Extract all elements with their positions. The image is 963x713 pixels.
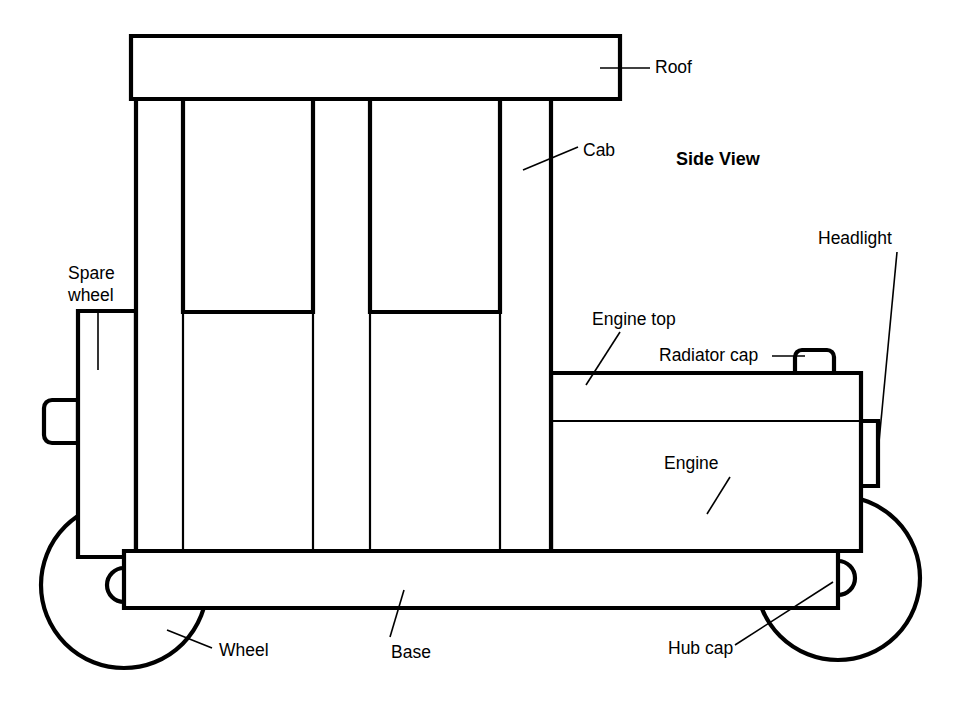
radiator-cap	[795, 350, 834, 373]
base	[124, 551, 838, 608]
page-title: Side View	[676, 149, 761, 169]
spare-wheel-bracket	[44, 400, 78, 443]
roof	[131, 36, 620, 99]
label-spare-wheel-line2: wheel	[67, 285, 114, 305]
cab-window-front	[370, 99, 500, 312]
label-radiator-cap: Radiator cap	[659, 345, 758, 365]
label-headlight: Headlight	[818, 228, 892, 248]
label-engine-top: Engine top	[592, 309, 676, 329]
label-wheel: Wheel	[219, 640, 269, 660]
side-view-diagram: Roof Cab Side View Headlight Spare wheel…	[0, 0, 963, 713]
side-view-drawing: Roof Cab Side View Headlight Spare wheel…	[0, 0, 963, 713]
cab-window-rear	[183, 99, 313, 312]
spare-wheel	[78, 311, 136, 557]
label-spare-wheel-line1: Spare	[68, 263, 115, 283]
label-base: Base	[391, 642, 431, 662]
label-hub-cap: Hub cap	[668, 638, 733, 658]
label-cab: Cab	[583, 140, 615, 160]
leader-headlight	[879, 252, 897, 442]
label-roof: Roof	[655, 57, 692, 77]
label-engine: Engine	[664, 453, 719, 473]
